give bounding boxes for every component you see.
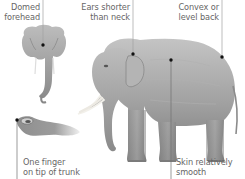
label-one-finger: One finger on tip of trunk	[23, 157, 80, 177]
label-line: forehead	[4, 12, 40, 22]
side-elephant-illustration	[78, 39, 237, 163]
label-line: Ears shorter	[81, 2, 130, 12]
label-ears-shorter: Ears shorter than neck	[81, 2, 130, 22]
label-line: Convex or	[178, 2, 219, 12]
front-head-illustration	[22, 25, 66, 99]
label-skin-smooth: Skin relatively smooth	[176, 157, 233, 177]
label-line: than neck	[81, 12, 130, 22]
trunk-tip-illustration	[17, 96, 80, 136]
label-line: level back	[178, 12, 219, 22]
label-line: One finger	[23, 157, 80, 167]
illustration	[0, 0, 245, 179]
label-line: on tip of trunk	[23, 167, 80, 177]
label-line: Domed	[4, 2, 40, 12]
label-line: Skin relatively	[176, 157, 233, 167]
elephant-diagram: Domed forehead Ears shorter than neck Co…	[0, 0, 245, 179]
label-domed-forehead: Domed forehead	[4, 2, 40, 22]
label-convex-back: Convex or level back	[178, 2, 219, 22]
label-line: smooth	[176, 167, 233, 177]
